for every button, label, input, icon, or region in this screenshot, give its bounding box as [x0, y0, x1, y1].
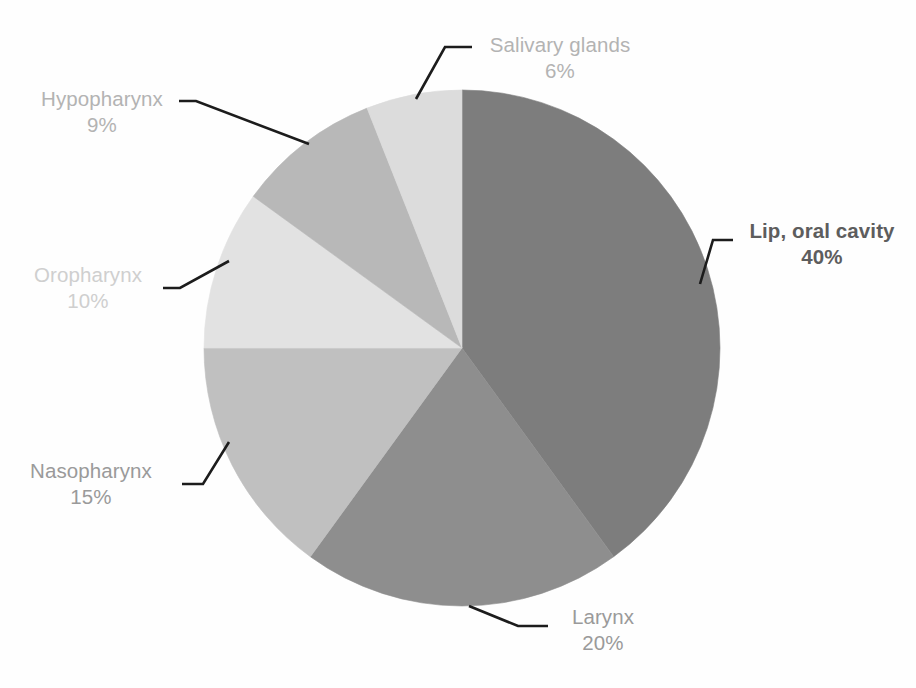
slice-label-name: Larynx — [572, 605, 634, 628]
pie-slices-group — [204, 90, 720, 606]
slice-label-oropharynx: Oropharynx 10% — [18, 262, 158, 314]
slice-label-percent: 10% — [18, 288, 158, 314]
slice-label-lip-oral-cavity: Lip, oral cavity 40% — [738, 218, 906, 270]
slice-label-name: Nasopharynx — [30, 459, 152, 482]
slice-label-percent: 40% — [738, 244, 906, 270]
slice-label-name: Salivary glands — [490, 33, 631, 56]
slice-label-name: Lip, oral cavity — [749, 219, 894, 242]
slice-label-percent: 6% — [460, 58, 660, 84]
pie-chart-figure: Salivary glands 6% Hypopharynx 9% Oropha… — [0, 0, 916, 688]
leader-line-larynx — [469, 606, 548, 626]
slice-label-percent: 20% — [553, 630, 653, 656]
slice-label-larynx: Larynx 20% — [553, 604, 653, 656]
slice-label-salivary-glands: Salivary glands 6% — [460, 32, 660, 84]
slice-label-nasopharynx: Nasopharynx 15% — [6, 458, 176, 510]
slice-label-percent: 15% — [6, 484, 176, 510]
slice-label-percent: 9% — [22, 112, 182, 138]
slice-label-name: Oropharynx — [34, 263, 142, 286]
slice-label-hypopharynx: Hypopharynx 9% — [22, 86, 182, 138]
leader-line-hypopharynx — [179, 101, 309, 144]
slice-label-name: Hypopharynx — [41, 87, 163, 110]
leader-line-nasopharynx — [182, 442, 229, 484]
